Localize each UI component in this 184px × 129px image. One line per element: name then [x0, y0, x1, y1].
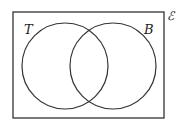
- set-t-circle: [22, 23, 108, 109]
- venn-diagram: T B ℰ: [0, 0, 184, 129]
- set-b-label: B: [143, 22, 154, 37]
- universal-set-label: ℰ: [167, 9, 176, 23]
- set-t-label: T: [24, 22, 34, 37]
